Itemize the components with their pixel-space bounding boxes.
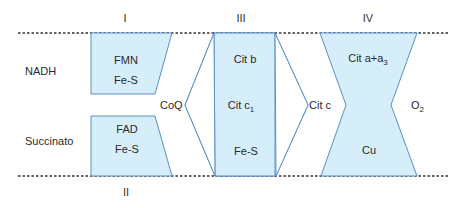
fe-s-ii-label: Fe-S: [115, 143, 139, 155]
o2-label: O2: [411, 99, 425, 114]
nadh-label: NADH: [25, 65, 56, 77]
complex-ii-label: II: [123, 186, 129, 198]
cit-c-label: Cit c: [309, 99, 332, 111]
succinato-label: Succinato: [25, 135, 73, 147]
complex-iii-label: III: [236, 12, 245, 24]
coq-wedge: [185, 33, 215, 176]
fmn-label: FMN: [114, 54, 138, 66]
complex-iv-label: IV: [363, 12, 374, 24]
coq-label: CoQ: [160, 99, 183, 111]
fe-s-iii-label: Fe-S: [234, 145, 258, 157]
electron-transport-chain-diagram: I II III IV NADH Succinato FMN Fe-S FAD …: [0, 0, 463, 208]
fad-label: FAD: [116, 123, 137, 135]
cu-label: Cu: [362, 144, 376, 156]
complex-i-label: I: [123, 12, 126, 24]
cit-b-label: Cit b: [234, 53, 257, 65]
fe-s-i-label: Fe-S: [114, 74, 138, 86]
citc-wedge: [275, 33, 308, 176]
